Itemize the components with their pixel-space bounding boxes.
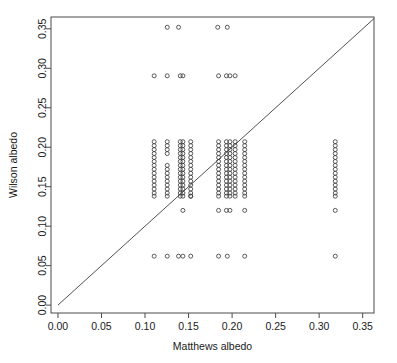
data-point (233, 163, 237, 167)
data-point (181, 175, 185, 179)
data-point (243, 167, 247, 171)
data-point (181, 167, 185, 171)
data-point (233, 140, 237, 144)
data-point (165, 152, 169, 156)
data-point (181, 156, 185, 160)
data-point (243, 179, 247, 183)
data-point (243, 171, 247, 175)
identity-reference-line (58, 19, 374, 306)
data-point (165, 25, 169, 29)
data-point (233, 159, 237, 163)
data-point (152, 156, 156, 160)
data-point (217, 208, 221, 212)
data-point (217, 148, 221, 152)
data-point (217, 183, 221, 187)
x-axis-tick-label: 0.05 (91, 320, 112, 332)
x-axis-tick-label: 0.15 (178, 320, 199, 332)
data-point (333, 156, 337, 160)
data-point (225, 25, 229, 29)
data-point (217, 152, 221, 156)
data-point (165, 179, 169, 183)
data-point (165, 183, 169, 187)
data-point (243, 152, 247, 156)
data-point (165, 163, 169, 167)
x-axis-tick-label: 0.00 (48, 320, 69, 332)
data-point (243, 140, 247, 144)
data-point (233, 167, 237, 171)
data-point (181, 171, 185, 175)
data-point (333, 140, 337, 144)
data-point (152, 144, 156, 148)
y-axis-tick-label: 0.25 (36, 97, 48, 118)
data-point (189, 156, 193, 160)
x-axis-tick-label: 0.20 (222, 320, 243, 332)
data-point (217, 74, 221, 78)
data-point (217, 140, 221, 144)
data-point (165, 187, 169, 191)
y-axis-tick-label: 0.30 (36, 58, 48, 79)
data-point (333, 254, 337, 258)
data-point (333, 152, 337, 156)
data-point (181, 179, 185, 183)
data-point (152, 175, 156, 179)
data-point (225, 254, 229, 258)
x-axis-tick-label: 0.30 (309, 320, 330, 332)
y-axis-tick-label: 0.15 (36, 176, 48, 197)
y-axis-tick-label: 0.10 (36, 216, 48, 237)
data-point (189, 159, 193, 163)
data-points-group (152, 25, 337, 258)
data-point (243, 163, 247, 167)
data-point (181, 148, 185, 152)
data-point (152, 167, 156, 171)
y-axis-tick-label: 0.00 (36, 295, 48, 316)
data-point (243, 208, 247, 212)
data-point (243, 187, 247, 191)
data-point (233, 156, 237, 160)
data-point (333, 183, 337, 187)
data-point (243, 144, 247, 148)
data-point (181, 163, 185, 167)
data-point (165, 254, 169, 258)
data-point (152, 148, 156, 152)
y-axis-tick-label: 0.20 (36, 137, 48, 158)
data-point (152, 159, 156, 163)
data-point (217, 187, 221, 191)
data-point (165, 175, 169, 179)
data-point (243, 254, 247, 258)
data-point (243, 175, 247, 179)
data-point (216, 25, 220, 29)
data-point (181, 140, 185, 144)
data-point (189, 187, 193, 191)
data-point (181, 183, 185, 187)
data-point (165, 167, 169, 171)
plot-canvas: 0.000.050.100.150.200.250.300.350.000.05… (0, 0, 397, 363)
data-point (181, 152, 185, 156)
data-point (165, 148, 169, 152)
data-point (181, 187, 185, 191)
data-point (217, 254, 221, 258)
data-point (243, 159, 247, 163)
data-point (217, 167, 221, 171)
data-point (217, 175, 221, 179)
data-point (189, 254, 193, 258)
data-point (152, 163, 156, 167)
data-point (233, 183, 237, 187)
data-point (233, 175, 237, 179)
data-point (333, 171, 337, 175)
data-point (217, 163, 221, 167)
y-axis-tick-label: 0.05 (36, 255, 48, 276)
data-point (233, 148, 237, 152)
data-point (333, 159, 337, 163)
data-point (152, 183, 156, 187)
data-point (189, 163, 193, 167)
data-point (181, 159, 185, 163)
data-point (181, 74, 185, 78)
data-point (333, 179, 337, 183)
data-point (233, 187, 237, 191)
x-axis-title: Matthews albedo (173, 340, 253, 352)
data-point (217, 179, 221, 183)
data-point (217, 144, 221, 148)
data-point (165, 74, 169, 78)
data-point (233, 171, 237, 175)
data-point (189, 140, 193, 144)
